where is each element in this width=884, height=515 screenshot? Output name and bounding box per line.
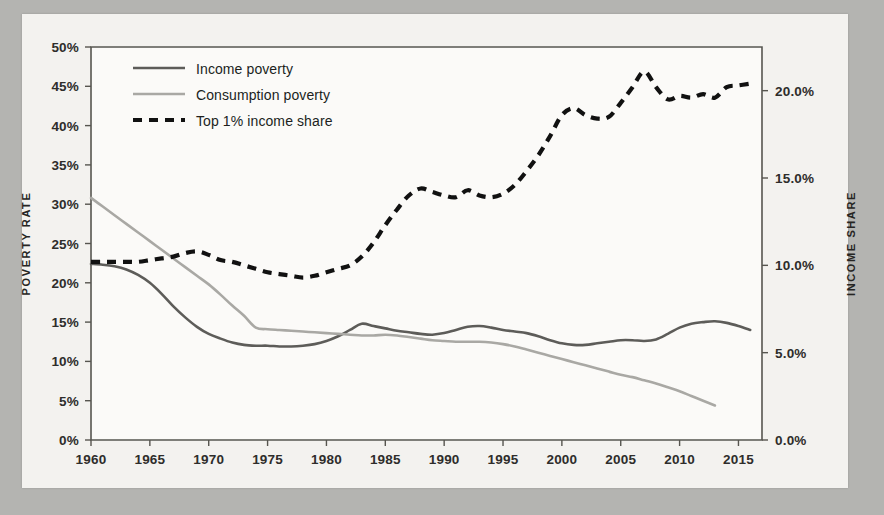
y2-axis-tick-label: 20.0% [775,84,814,99]
legend-label: Consumption poverty [196,87,330,103]
y-axis-tick-label: 5% [59,394,79,409]
y-axis-tick-label: 35% [51,158,79,173]
legend-label: Income poverty [196,61,293,77]
y-axis-tick-label: 15% [51,315,79,330]
y2-axis-tick-label: 15.0% [775,171,814,186]
x-axis-tick-label: 1990 [429,452,460,467]
chart-figure: 0%5%10%15%20%25%30%35%40%45%50%POVERTY R… [0,0,884,515]
x-axis-tick-label: 1965 [134,452,165,467]
poverty-income-share-chart: 0%5%10%15%20%25%30%35%40%45%50%POVERTY R… [0,0,884,515]
x-axis-tick-label: 2010 [664,452,695,467]
scanned-page: from the other side of the pagefaint sho… [0,0,884,515]
x-axis-tick-label: 1995 [488,452,519,467]
y-axis-title: POVERTY RATE [20,192,32,296]
y-axis-tick-label: 45% [51,79,79,94]
y2-axis-tick-label: 10.0% [775,258,814,273]
plot-background [90,46,763,441]
x-axis-tick-label: 2015 [723,452,754,467]
y-axis-tick-label: 25% [51,237,79,252]
y-axis-tick-label: 20% [51,276,79,291]
y-axis-tick-label: 50% [51,40,79,55]
x-axis-tick-label: 1975 [252,452,283,467]
x-axis-tick-label: 2005 [605,452,636,467]
y2-axis-tick-label: 0.0% [775,433,807,448]
y-axis-tick-label: 0% [59,433,79,448]
y-axis-tick-label: 30% [51,197,79,212]
x-axis-tick-label: 1985 [370,452,401,467]
x-axis-tick-label: 1960 [76,452,107,467]
legend-label: Top 1% income share [196,113,333,129]
x-axis-tick-label: 2000 [546,452,577,467]
x-axis-tick-label: 1980 [311,452,342,467]
y-axis-tick-label: 40% [51,119,79,134]
y2-axis-tick-label: 5.0% [775,346,807,361]
y-axis-tick-label: 10% [51,354,79,369]
y2-axis-title: INCOME SHARE [845,191,857,296]
x-axis-tick-label: 1970 [193,452,224,467]
